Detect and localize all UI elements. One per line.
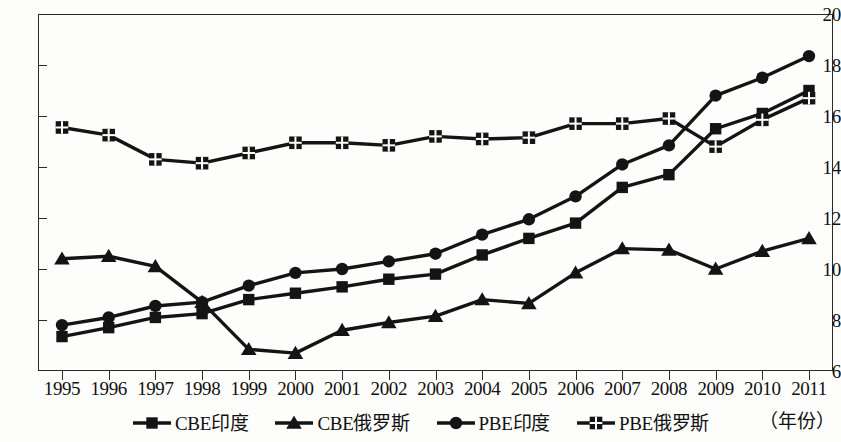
x-tick-label: 1996: [90, 379, 126, 398]
legend-marker-icon: [274, 416, 314, 430]
y-tick-mark: [38, 269, 47, 270]
legend-marker-icon: [436, 416, 476, 430]
x-tick-label: 2004: [464, 379, 500, 398]
legend-item[interactable]: CBE俄罗斯: [274, 414, 409, 433]
y-tick-label: 14: [805, 158, 841, 177]
x-tick-label: 2003: [417, 379, 453, 398]
legend-item[interactable]: PBE印度: [436, 414, 550, 433]
x-axis-unit-label: （年份）: [759, 408, 835, 431]
legend-label: CBE俄罗斯: [317, 414, 409, 433]
x-tick-label: 2006: [557, 379, 593, 398]
x-tick-label: 2010: [744, 379, 780, 398]
y-tick-label: 18: [805, 56, 841, 75]
x-tick-label: 1998: [184, 379, 220, 398]
legend-item[interactable]: CBE印度: [132, 414, 248, 433]
series-line: [62, 56, 809, 325]
series-markers: [56, 50, 815, 331]
y-tick-mark: [38, 167, 47, 168]
x-tick-label: 2002: [371, 379, 407, 398]
series-markers: [56, 92, 816, 170]
x-tick-label: 2005: [511, 379, 547, 398]
legend-item[interactable]: PBE俄罗斯: [576, 414, 709, 433]
x-tick-label: 2001: [324, 379, 360, 398]
y-tick-label: 10: [805, 260, 841, 279]
x-tick-label: 1997: [137, 379, 173, 398]
series-line: [62, 91, 809, 337]
x-tick-label: 2007: [604, 379, 640, 398]
chart-root: 68101214161820 1995199619971998199920002…: [0, 0, 841, 442]
legend-label: PBE印度: [479, 414, 550, 433]
y-tick-label: 8: [805, 311, 841, 330]
x-tick-label: 2008: [651, 379, 687, 398]
y-tick-mark: [38, 116, 47, 117]
y-tick-mark: [38, 14, 47, 15]
x-tick-label: 1995: [44, 379, 80, 398]
legend-label: PBE俄罗斯: [619, 414, 709, 433]
x-tick-label: 1999: [231, 379, 267, 398]
y-tick-label: 16: [805, 107, 841, 126]
legend-label: CBE印度: [175, 414, 248, 433]
x-axis-unit-text: （年份）: [759, 408, 835, 431]
y-tick-mark: [38, 218, 47, 219]
x-tick-label: 2011: [791, 379, 827, 398]
y-tick-mark: [38, 65, 47, 66]
y-tick-mark: [38, 320, 47, 321]
x-tick-label: 2009: [697, 379, 733, 398]
legend-marker-icon: [576, 416, 616, 430]
legend-marker-icon: [132, 416, 172, 430]
x-tick-label: 2000: [277, 379, 313, 398]
chart-legend: CBE印度CBE俄罗斯PBE印度PBE俄罗斯: [0, 406, 841, 440]
y-tick-label: 20: [805, 5, 841, 24]
y-tick-label: 12: [805, 209, 841, 228]
